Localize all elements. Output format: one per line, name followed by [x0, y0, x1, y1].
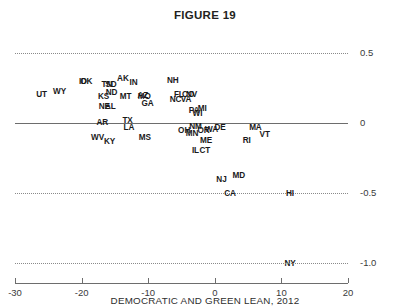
state-label-ok: OK	[80, 77, 92, 86]
state-label-wy: WY	[53, 86, 66, 95]
x-tick-0	[215, 278, 216, 283]
state-label-ct: CT	[199, 145, 210, 154]
state-label-mt: MT	[120, 92, 132, 101]
figure-title: FIGURE 19	[0, 9, 410, 21]
figure-19: FIGURE 19 0.50-0.5-1.0UTWYIDOKTNSDAKINKS…	[0, 0, 410, 307]
x-axis-line	[15, 283, 348, 284]
state-label-nd: ND	[106, 88, 118, 97]
x-tick-20	[348, 278, 349, 283]
state-label-va: VA	[181, 95, 192, 104]
state-label-al: AL	[105, 102, 116, 111]
state-label-md: MD	[232, 170, 245, 179]
y-tick-label--0.5: -0.5	[360, 187, 376, 198]
state-label-mi: MI	[198, 103, 207, 112]
x-tick--10	[148, 278, 149, 283]
state-label-ut: UT	[36, 89, 47, 98]
x-tick--30	[15, 278, 16, 283]
state-label-nh: NH	[167, 75, 179, 84]
state-label-vt: VT	[260, 130, 270, 139]
state-label-ca: CA	[224, 189, 236, 198]
x-tick-10	[281, 278, 282, 283]
y-tick-label-0.5: 0.5	[360, 47, 373, 58]
state-label-nj: NJ	[216, 175, 226, 184]
state-label-ga: GA	[141, 99, 153, 108]
zero-axis-line	[15, 123, 348, 124]
gridline-0.5	[15, 53, 348, 54]
x-axis-caption: DEMOCRATIC AND GREEN LEAN, 2012	[0, 295, 410, 306]
y-tick-label--1.0: -1.0	[360, 257, 376, 268]
y-tick-label-0: 0	[360, 117, 365, 128]
gridline--1.0	[15, 263, 348, 264]
state-label-ri: RI	[243, 135, 251, 144]
state-label-ky: KY	[104, 137, 115, 146]
state-label-nc: NC	[170, 95, 182, 104]
state-label-ak: AK	[117, 74, 129, 83]
state-label-il: IL	[192, 145, 199, 154]
state-label-ms: MS	[139, 133, 151, 142]
state-label-wv: WV	[91, 133, 104, 142]
state-label-hi: HI	[286, 189, 294, 198]
state-label-de: DE	[215, 123, 226, 132]
state-label-ar: AR	[96, 117, 108, 126]
scatter-plot-area: 0.50-0.5-1.0UTWYIDOKTNSDAKINKSNDMTAZMONE…	[0, 32, 410, 272]
state-label-me: ME	[200, 135, 212, 144]
state-label-la: LA	[124, 123, 135, 132]
gridline--0.5	[15, 193, 348, 194]
state-label-in: IN	[130, 78, 138, 87]
x-tick--20	[82, 278, 83, 283]
